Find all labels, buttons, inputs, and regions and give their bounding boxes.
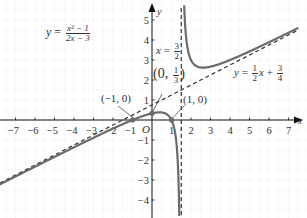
x-tick-label: 6 <box>266 125 271 136</box>
axis-tick-labels: −7−6−5−4−3−2−11234567−4−3−2−112345 <box>8 15 291 206</box>
y-tick-label: −4 <box>138 195 150 206</box>
x-tick-label: 2 <box>188 125 193 136</box>
x-tick-label: −4 <box>66 125 78 136</box>
y-tick-label: 5 <box>144 15 149 26</box>
pt0-den: 3 <box>173 76 180 85</box>
oblique-asymptote-label: y = 12x + 34 <box>234 64 284 83</box>
y-tick-label: 3 <box>144 55 149 66</box>
asym-o-eq: = <box>239 66 251 78</box>
asym-o-den1: 2 <box>252 74 259 83</box>
x-tick-label: 4 <box>227 125 233 136</box>
asym-v-eq: = <box>161 44 173 56</box>
vertical-asymptote-label: x = 32 <box>156 42 181 61</box>
y-axis-arrow-icon <box>149 3 156 12</box>
asym-v-den: 2 <box>174 52 181 61</box>
asym-v-fraction: 32 <box>174 42 181 61</box>
x-tick-label: −7 <box>8 125 19 136</box>
point-label-0-third: (0, 13) <box>153 66 185 85</box>
eq-equals: = <box>51 25 64 39</box>
key-point-marker <box>130 117 135 122</box>
x-axis-label: x <box>298 117 302 126</box>
x-tick-label: −6 <box>27 125 38 136</box>
asym-o-den2: 4 <box>277 74 284 83</box>
y-tick-label: 2 <box>144 75 149 86</box>
x-tick-label: 3 <box>208 125 213 136</box>
pt0-fraction: 13 <box>173 66 180 85</box>
key-point-marker <box>169 117 174 122</box>
x-tick-label: −1 <box>125 125 136 136</box>
leader-1 <box>173 105 186 118</box>
pt0-open: (0, <box>153 66 172 81</box>
x-tick-label: 5 <box>247 125 252 136</box>
leader-neg1 <box>118 106 134 118</box>
function-equation: y = x² − 12x − 3 <box>46 24 92 43</box>
asym-o-frac2: 34 <box>277 64 284 83</box>
asym-o-plus: + <box>264 66 276 78</box>
y-tick-label: 1 <box>144 95 149 106</box>
y-tick-label: 4 <box>144 35 150 46</box>
leader-0-third <box>153 94 162 111</box>
point-label-1-0: (1, 0) <box>183 94 207 105</box>
x-tick-label: 7 <box>286 125 291 136</box>
y-tick-label: −1 <box>138 135 149 146</box>
eq-fraction: x² − 12x − 3 <box>65 24 91 43</box>
eq-denominator: 2x − 3 <box>65 34 91 43</box>
asym-o-frac1: 12 <box>252 64 259 83</box>
pt0-close: ) <box>180 66 185 81</box>
point-label-neg1-0: (−1, 0) <box>101 93 131 104</box>
origin-label: O <box>142 124 150 135</box>
curve-right-branch <box>184 5 298 67</box>
x-tick-label: −5 <box>47 125 58 136</box>
key-point-marker <box>149 111 154 116</box>
y-tick-label: −3 <box>138 175 149 186</box>
y-axis-label: y <box>157 7 161 17</box>
y-tick-label: −2 <box>138 155 149 166</box>
